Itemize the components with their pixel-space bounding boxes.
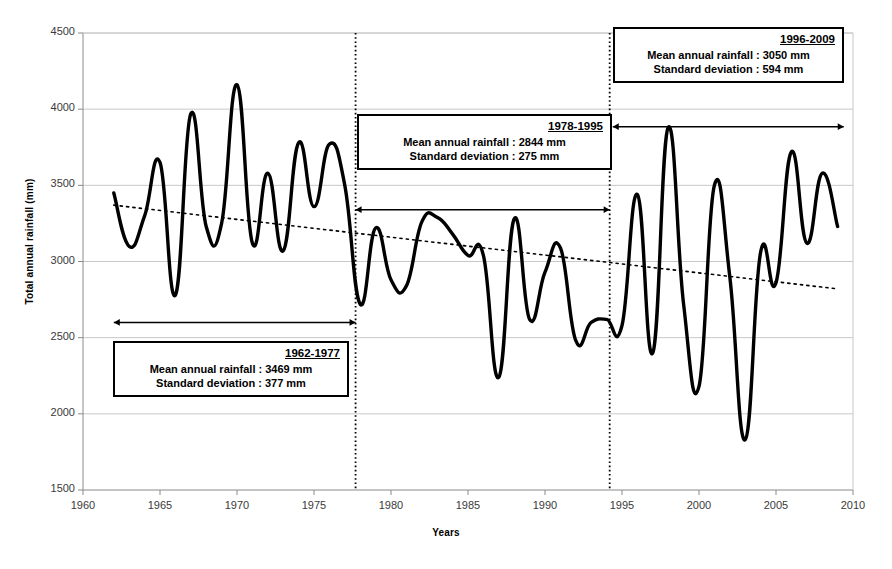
x-tick-label: 2010 — [823, 499, 883, 511]
y-tick-marks — [78, 33, 83, 490]
annotation-sd-1978-1995: Standard deviation : 275 mm — [366, 149, 603, 163]
y-axis-title: Total annual rainfall (mm) — [24, 142, 35, 342]
annotation-title-1978-1995: 1978-1995 — [366, 119, 603, 134]
annotation-box-1962-1977: 1962-1977 Mean annual rainfall : 3469 mm… — [113, 341, 349, 397]
x-axis-title: Years — [0, 527, 892, 538]
annotation-sd-1962-1977: Standard deviation : 377 mm — [122, 376, 340, 390]
range-arrow-1962-1977 — [114, 319, 356, 326]
y-tick-label: 3500 — [29, 177, 75, 189]
annotation-mean-1996-2009: Mean annual rainfall : 3050 mm — [622, 48, 835, 62]
y-tick-label: 4500 — [29, 25, 75, 37]
x-tick-label: 1960 — [53, 499, 113, 511]
annotation-title-1996-2009: 1996-2009 — [622, 32, 835, 47]
y-tick-label: 2500 — [29, 330, 75, 342]
x-tick-marks — [83, 490, 853, 495]
x-tick-label: 1990 — [515, 499, 575, 511]
rainfall-chart: Total annual rainfall (mm) Years 1500200… — [0, 0, 892, 569]
x-tick-label: 1975 — [284, 499, 344, 511]
annotation-sd-1996-2009: Standard deviation : 594 mm — [622, 62, 835, 76]
x-tick-label: 1980 — [361, 499, 421, 511]
range-arrow-1996-2009 — [613, 123, 844, 130]
y-tick-label: 4000 — [29, 101, 75, 113]
annotation-title-1962-1977: 1962-1977 — [122, 346, 340, 361]
annotation-mean-1962-1977: Mean annual rainfall : 3469 mm — [122, 362, 340, 376]
x-tick-label: 1965 — [130, 499, 190, 511]
x-tick-label: 2000 — [669, 499, 729, 511]
x-tick-label: 1985 — [438, 499, 498, 511]
x-tick-label: 1995 — [592, 499, 652, 511]
x-tick-label: 2005 — [746, 499, 806, 511]
y-tick-label: 1500 — [29, 482, 75, 494]
y-tick-label: 2000 — [29, 406, 75, 418]
annotation-mean-1978-1995: Mean annual rainfall : 2844 mm — [366, 135, 603, 149]
annotation-box-1996-2009: 1996-2009 Mean annual rainfall : 3050 mm… — [613, 27, 844, 83]
x-tick-label: 1970 — [207, 499, 267, 511]
range-arrow-1978-1995 — [356, 206, 610, 213]
annotation-box-1978-1995: 1978-1995 Mean annual rainfall : 2844 mm… — [357, 114, 612, 170]
y-tick-label: 3000 — [29, 254, 75, 266]
chart-plot-area — [0, 0, 892, 569]
